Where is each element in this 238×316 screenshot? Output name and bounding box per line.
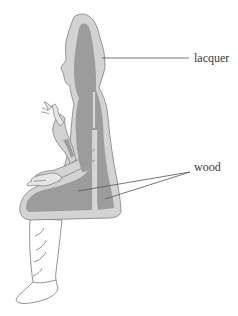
lacquer-label: lacquer <box>194 52 229 64</box>
figure-diagram <box>0 0 238 316</box>
wood-label: wood <box>194 161 221 173</box>
legs-drawing <box>16 219 62 304</box>
